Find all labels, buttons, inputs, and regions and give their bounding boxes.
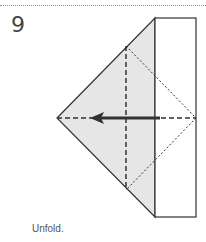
origami-diagram: [0, 0, 206, 242]
step-caption: Unfold.: [32, 223, 64, 234]
